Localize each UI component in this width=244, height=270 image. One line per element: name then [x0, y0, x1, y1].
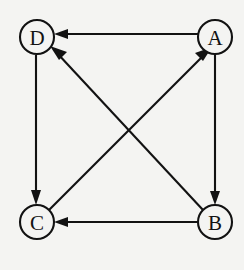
edge-b-to-c-arrowhead [54, 217, 68, 227]
edge-d-to-c-arrowhead [31, 190, 41, 205]
node-c-label: C [30, 211, 44, 235]
node-b-label: B [208, 211, 222, 235]
graph-canvas: D A C B [0, 0, 244, 270]
edge-a-to-b-arrowhead [210, 191, 220, 205]
node-d-label: D [29, 26, 44, 50]
edge-b-to-d-arrowhead [50, 46, 67, 60]
node-a-label: A [207, 26, 223, 50]
edge-a-to-d [54, 29, 198, 39]
edge-b-to-c [54, 217, 198, 227]
edge-a-to-b [210, 54, 220, 205]
node-a[interactable]: A [198, 20, 232, 54]
directed-graph-figure: D A C B [0, 0, 244, 270]
node-c[interactable]: C [20, 205, 54, 239]
node-b[interactable]: B [198, 205, 232, 239]
edge-d-to-c [31, 55, 41, 205]
edge-a-to-d-arrowhead [54, 29, 68, 39]
node-d[interactable]: D [20, 20, 54, 54]
